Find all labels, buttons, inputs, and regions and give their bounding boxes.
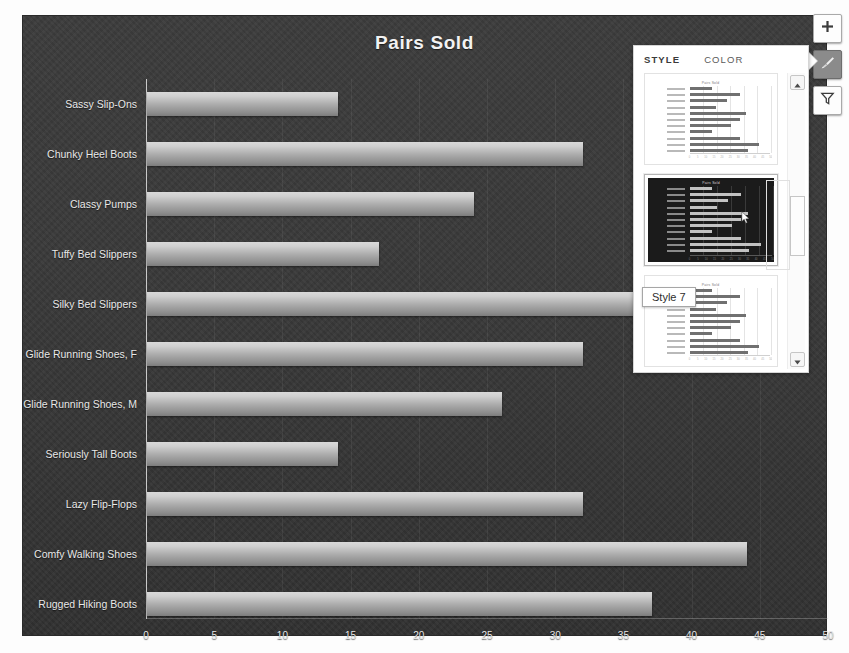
bar[interactable] — [147, 392, 502, 416]
thumbnail-tick: 25 — [729, 358, 732, 361]
gridline — [828, 79, 829, 619]
value-axis-tick: 20 — [413, 630, 424, 641]
chart-styles-button[interactable] — [813, 50, 842, 79]
bar[interactable] — [147, 242, 379, 266]
bar-row[interactable]: Lazy Flip-Flops — [146, 479, 828, 529]
thumbnail-bar — [690, 218, 742, 221]
thumbnail-bar — [690, 206, 717, 209]
value-axis-tick: 10 — [277, 630, 288, 641]
thumbnail-bar — [690, 351, 748, 354]
thumbnail-category-label — [667, 144, 684, 146]
scroll-up-button[interactable] — [790, 75, 805, 90]
thumbnail-bar — [690, 243, 761, 246]
scrollbar-thumb[interactable] — [790, 196, 805, 256]
thumbnail-tick: 40 — [755, 258, 758, 261]
thumbnail-category-label — [667, 113, 684, 115]
thumbnail-gridline — [771, 86, 772, 153]
bar[interactable] — [147, 542, 747, 566]
thumbnail-tick: 15 — [712, 358, 715, 361]
bar-row[interactable]: Comfy Walking Shoes — [146, 529, 828, 579]
value-axis-tick-labels: 05101520253035404550 — [146, 630, 828, 650]
thumbnail-category-label — [667, 107, 684, 109]
panel-tab-bar: STYLE COLOR — [634, 46, 808, 72]
bar-row[interactable]: Glide Running Shoes, M — [146, 379, 828, 429]
bar-row[interactable]: Rugged Hiking Boots — [146, 579, 828, 629]
thumbnail-tick: 5 — [697, 156, 698, 159]
thumbnail-bar — [690, 212, 748, 215]
thumbnail-bar — [690, 295, 740, 298]
bar[interactable] — [147, 492, 583, 516]
thumbnail-category-label — [667, 194, 685, 196]
style-thumbnail-7[interactable]: Pairs Sold05101520253035404550 — [644, 174, 778, 266]
chart-elements-button[interactable] — [813, 14, 842, 43]
thumbnail-bar — [690, 187, 713, 190]
thumbnail-category-label — [667, 346, 684, 348]
thumbnail-tick: 15 — [713, 258, 716, 261]
thumbnail-bar — [690, 93, 740, 96]
category-axis-label: Seriously Tall Boots — [46, 448, 137, 460]
thumbnail-tick: 10 — [704, 156, 707, 159]
triangle-down-icon — [794, 351, 801, 369]
thumbnail-bar — [690, 320, 740, 323]
tab-style[interactable]: STYLE — [642, 51, 690, 68]
thumbnail-category-label — [667, 207, 685, 209]
category-axis-label: Rugged Hiking Boots — [38, 598, 137, 610]
plus-icon — [820, 19, 835, 38]
thumbnail-bar — [690, 99, 728, 102]
thumbnail-bar — [690, 149, 748, 152]
thumbnail-tick: 5 — [697, 358, 698, 361]
thumbnail-category-label — [667, 250, 685, 252]
thumbnail-tick: 0 — [689, 358, 690, 361]
style-thumbnail-6[interactable]: Pairs Sold05101520253035404550 — [644, 73, 778, 165]
thumbnail-gridline — [771, 288, 772, 355]
tab-color[interactable]: COLOR — [702, 51, 753, 68]
thumbnail-tick: 40 — [753, 156, 756, 159]
bar[interactable] — [147, 92, 338, 116]
thumbnail-tick: 50 — [769, 358, 772, 361]
triangle-up-icon — [794, 74, 801, 92]
thumbnail-category-label — [667, 309, 684, 311]
thumbnail-tick: 25 — [729, 156, 732, 159]
thumbnail-bar — [690, 87, 712, 90]
panel-scrollbar[interactable] — [787, 73, 805, 369]
thumbnail-category-label — [667, 100, 684, 102]
thumbnail-tick: 20 — [721, 156, 724, 159]
category-axis-line — [146, 618, 828, 619]
value-axis-tick: 40 — [686, 630, 697, 641]
thumbnail-tick: 10 — [704, 358, 707, 361]
bar[interactable] — [147, 142, 583, 166]
thumbnail-preview: Pairs Sold05101520253035404550 — [648, 178, 774, 262]
thumbnail-tick: 10 — [705, 258, 708, 261]
bar[interactable] — [147, 192, 474, 216]
thumbnail-axis — [690, 153, 770, 154]
style-thumbnail-list[interactable]: Pairs Sold05101520253035404550Pairs Sold… — [638, 73, 784, 369]
chart-style-panel[interactable]: STYLE COLOR Pairs Sold051015202530354045… — [633, 45, 809, 373]
value-axis-tick: 5 — [211, 630, 217, 641]
thumbnail-category-label — [667, 340, 684, 342]
bar[interactable] — [147, 342, 583, 366]
scroll-down-button[interactable] — [790, 352, 805, 367]
thumbnail-tick: 0 — [689, 258, 690, 261]
bar-row[interactable]: Seriously Tall Boots — [146, 429, 828, 479]
thumbnail-tick: 35 — [745, 156, 748, 159]
thumbnail-bar — [690, 314, 747, 317]
thumbnail-bar — [690, 326, 731, 329]
thumbnail-category-label — [667, 238, 685, 240]
bar[interactable] — [147, 442, 338, 466]
bar[interactable] — [147, 592, 652, 616]
thumbnail-category-label — [667, 315, 684, 317]
bar[interactable] — [147, 292, 638, 316]
thumbnail-category-label — [667, 244, 685, 246]
value-axis-tick: 30 — [550, 630, 561, 641]
thumbnail-category-label — [667, 138, 684, 140]
thumbnail-tick: 40 — [753, 358, 756, 361]
thumbnail-category-label — [667, 119, 684, 121]
thumbnail-tick: 45 — [761, 358, 764, 361]
thumbnail-bar — [690, 143, 759, 146]
value-axis-tick: 15 — [345, 630, 356, 641]
thumbnail-bar — [690, 106, 717, 109]
chart-filters-button[interactable] — [813, 86, 842, 115]
thumbnail-bar — [690, 199, 729, 202]
brush-icon — [820, 55, 836, 75]
thumbnail-tick: 30 — [738, 258, 741, 261]
